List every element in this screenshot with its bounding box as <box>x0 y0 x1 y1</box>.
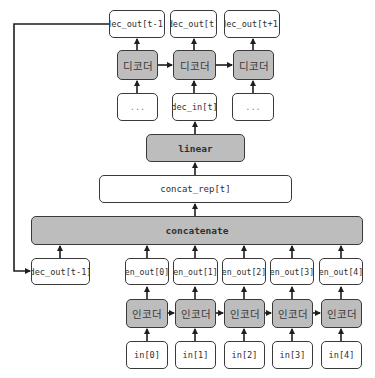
encoder-block: 인코더 <box>321 299 362 328</box>
decoder-output-box: dec_out[t+1] <box>224 10 280 38</box>
encoder-output-box: en_out[0] <box>125 258 169 285</box>
encoder-block: 인코더 <box>272 299 313 328</box>
decoder-output-box: dec_out[t] <box>170 10 217 38</box>
decoder-block: 디코더 <box>173 50 216 80</box>
decoder-block: 디코더 <box>233 50 274 80</box>
feedback-decoder-output-box: dec_out[t-1] <box>31 258 90 285</box>
encoder-block: 인코더 <box>175 299 216 328</box>
decoder-input-box: ... <box>232 93 274 121</box>
encoder-output-box: en_out[2] <box>222 258 266 285</box>
encoder-input-box: in[0] <box>126 341 168 369</box>
encoder-output-box: en_out[4] <box>319 258 363 285</box>
encoder-output-box: en_out[3] <box>270 258 314 285</box>
decoder-output-box: dec_out[t-1] <box>109 10 165 38</box>
encoder-output-box: en_out[1] <box>173 258 218 285</box>
linear-layer: linear <box>146 134 245 162</box>
encoder-input-box: in[2] <box>224 341 265 369</box>
decoder-block: 디코더 <box>117 50 158 80</box>
encoder-input-box: in[1] <box>175 341 216 369</box>
encoder-block: 인코더 <box>224 299 265 328</box>
decoder-input-box: ... <box>117 93 158 121</box>
encoder-block: 인코더 <box>126 299 168 328</box>
concat-rep-box: concat_rep[t] <box>99 175 292 203</box>
decoder-input-box: dec_in[t] <box>172 93 217 121</box>
concatenate-layer: concatenate <box>31 216 363 245</box>
encoder-input-box: in[3] <box>272 341 313 369</box>
encoder-input-box: in[4] <box>321 341 362 369</box>
